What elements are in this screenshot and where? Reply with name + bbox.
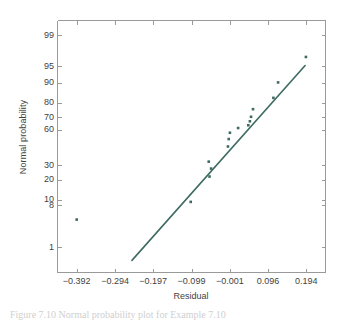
data-point: [189, 201, 192, 204]
data-point: [227, 138, 230, 141]
y-axis-tick-labels: 99959080706030201081: [28, 0, 54, 317]
y-tick-label: 99: [30, 31, 54, 40]
data-points: [75, 56, 307, 221]
normal-reference-line: [132, 65, 305, 260]
x-tick-label: 0.194: [283, 277, 329, 286]
data-point: [227, 145, 230, 148]
data-point: [210, 167, 213, 170]
x-axis-tick-labels: −0.392−0.294−0.197−0.099−0.0010.0960.194: [0, 277, 343, 291]
data-point: [249, 120, 252, 123]
data-point: [237, 127, 240, 130]
y-axis-title: Normal probability: [18, 67, 28, 207]
y-tick-label: 1: [30, 243, 54, 252]
data-point: [208, 175, 211, 178]
data-point: [75, 218, 78, 221]
data-point: [252, 108, 255, 111]
y-tick-label: 30: [30, 161, 54, 170]
data-point: [247, 124, 250, 127]
x-axis-title: Residual: [57, 291, 325, 301]
figure-caption: Figure 7.10 Normal probability plot for …: [10, 309, 340, 321]
axis-frame: [58, 21, 326, 273]
y-tick-label: 60: [30, 125, 54, 134]
y-tick-label: 70: [30, 113, 54, 122]
data-point: [229, 131, 232, 134]
y-tick-label: 80: [30, 98, 54, 107]
data-point: [272, 97, 275, 100]
data-point: [250, 115, 253, 118]
data-point: [305, 56, 308, 59]
y-tick-label: 8: [30, 201, 54, 210]
y-tick-label: 20: [30, 175, 54, 184]
y-tick-label: 90: [30, 78, 54, 87]
data-point: [277, 81, 280, 84]
y-tick-label: 95: [30, 62, 54, 71]
data-point: [207, 160, 210, 163]
axis-ticks: [58, 21, 326, 273]
